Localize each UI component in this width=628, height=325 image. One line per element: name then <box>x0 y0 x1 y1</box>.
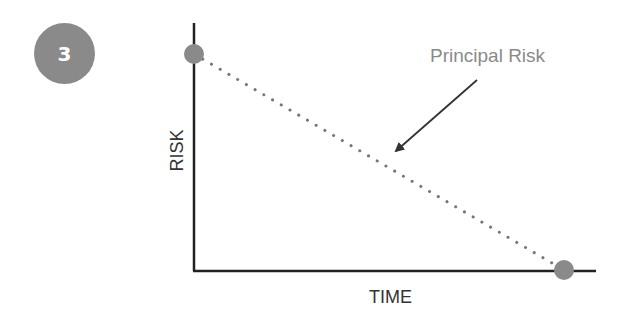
x-axis-label: TIME <box>369 287 412 308</box>
principal-risk-line <box>194 54 564 270</box>
y-axis-label: RISK <box>167 129 188 171</box>
annotation-arrow <box>396 80 477 151</box>
end-point <box>554 260 574 280</box>
principal-risk-annotation: Principal Risk <box>430 45 545 67</box>
start-point <box>184 44 204 64</box>
